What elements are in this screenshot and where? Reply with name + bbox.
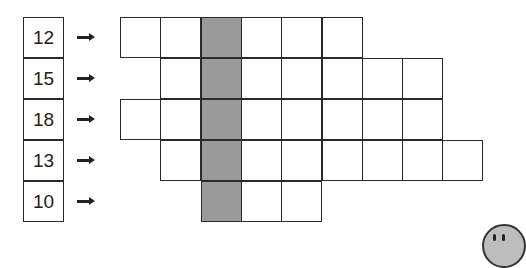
grid-cell xyxy=(362,58,403,99)
grid-cell xyxy=(362,140,403,181)
grid-cell xyxy=(281,58,322,99)
grid-cell xyxy=(160,99,201,140)
grid-cell xyxy=(402,99,443,140)
right-arrow-icon xyxy=(77,118,91,121)
grid-cell xyxy=(241,99,282,140)
grid-cell xyxy=(160,17,201,58)
grid-cell xyxy=(281,99,322,140)
grid-cell xyxy=(160,140,201,181)
grid-cell xyxy=(402,140,443,181)
grid-cell xyxy=(322,58,363,99)
grid-cell xyxy=(322,140,363,181)
right-arrow-icon xyxy=(77,159,91,162)
right-arrow-icon xyxy=(77,200,91,203)
grid-cell-shaded xyxy=(201,140,242,181)
grid-cell-shaded xyxy=(201,181,242,222)
row-label: 12 xyxy=(23,17,64,58)
row-label: 10 xyxy=(23,181,64,222)
grid-cell xyxy=(362,99,403,140)
grid-cell xyxy=(241,58,282,99)
row-label: 13 xyxy=(23,140,64,181)
grid-cell xyxy=(241,181,282,222)
grid-cell xyxy=(120,17,161,58)
grid-cell xyxy=(322,99,363,140)
grid-cell xyxy=(281,140,322,181)
grid-cell-shaded xyxy=(201,17,242,58)
right-arrow-icon xyxy=(77,36,91,39)
grid-cell xyxy=(160,58,201,99)
row-label: 15 xyxy=(23,58,64,99)
grid-cell xyxy=(281,181,322,222)
grid-cell-shaded xyxy=(201,99,242,140)
mascot-face-icon xyxy=(482,224,526,268)
right-arrow-icon xyxy=(77,77,91,80)
grid-cell xyxy=(322,17,363,58)
grid-cell xyxy=(241,140,282,181)
grid-cell-shaded xyxy=(201,58,242,99)
grid-cell xyxy=(241,17,282,58)
row-label: 18 xyxy=(23,99,64,140)
grid-cell xyxy=(442,140,483,181)
grid-cell xyxy=(120,99,161,140)
grid-cell xyxy=(402,58,443,99)
grid-cell xyxy=(281,17,322,58)
